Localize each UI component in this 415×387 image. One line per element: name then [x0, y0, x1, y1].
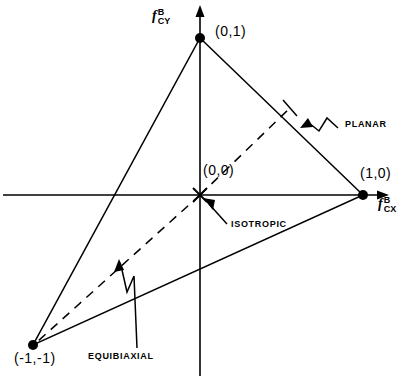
- diagram-canvas: [0, 0, 415, 387]
- isotropic-leader-line: [203, 198, 227, 224]
- y-axis-arrowhead: [196, 5, 205, 17]
- annotation-planar: PLANAR: [345, 120, 387, 129]
- planar-leader-arrowhead: [300, 118, 313, 128]
- isotropic-leader-arrowhead: [203, 198, 215, 210]
- point-label-right: (1,0): [360, 166, 391, 180]
- vertex-marker-1-0: [358, 190, 368, 200]
- x-axis-subscript: CX: [384, 205, 397, 214]
- planar-leader-line: [300, 118, 338, 131]
- orientation-triangle-figure: fBCY fBCX (0,1) (1,0) (0,0) (-1,-1) PLAN…: [0, 0, 415, 387]
- y-axis-subscript: CY: [158, 17, 171, 26]
- y-axis-label: fBCY: [152, 8, 170, 27]
- y-axis-variable: f: [152, 8, 157, 23]
- vertex-marker-minus1-minus1: [28, 340, 38, 350]
- attainable-region-triangle: [33, 38, 363, 345]
- point-label-origin: (0,0): [203, 163, 234, 177]
- x-axis-label: fBCX: [378, 196, 396, 215]
- planar-path-dashed-line: [200, 108, 290, 195]
- x-axis-variable: f: [378, 196, 383, 211]
- point-label-top: (0,1): [215, 24, 246, 38]
- point-label-bottom-left: (-1,-1): [14, 351, 56, 365]
- annotation-equibiaxial: EQUIBIAXIAL: [88, 352, 154, 361]
- annotation-isotropic: ISOTROPIC: [231, 220, 287, 229]
- vertex-marker-0-1: [195, 33, 205, 43]
